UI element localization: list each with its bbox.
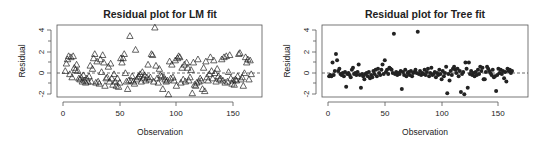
y-tick-label: 2 xyxy=(37,49,46,54)
data-point xyxy=(119,59,125,65)
data-point xyxy=(443,71,447,75)
data-point xyxy=(202,88,208,94)
y-tick-label: 4 xyxy=(37,27,46,32)
data-point xyxy=(351,66,355,70)
data-point xyxy=(225,69,231,75)
y-tick-label: 2 xyxy=(302,49,311,54)
tree-residual-plot-panel: Residual plot for Tree fit -2 0 2 4 Resi… xyxy=(272,0,544,145)
data-point xyxy=(98,69,104,75)
data-point xyxy=(483,77,487,81)
data-point xyxy=(504,79,508,83)
data-point xyxy=(121,51,127,57)
data-point xyxy=(429,66,433,70)
data-point xyxy=(463,60,467,64)
data-point xyxy=(357,63,361,67)
y-tick-label: -2 xyxy=(302,90,311,98)
data-point xyxy=(444,65,448,69)
x-tick-label: 100 xyxy=(169,109,183,118)
chart-title: Residual plot for Tree fit xyxy=(365,8,486,20)
data-point xyxy=(386,72,390,76)
chart-title: Residual plot for LM fit xyxy=(103,8,217,20)
data-point xyxy=(332,73,336,77)
data-point xyxy=(462,92,466,96)
data-point xyxy=(426,67,430,71)
data-point xyxy=(132,46,138,52)
x-tick-label: 150 xyxy=(491,109,505,118)
y-tick-label: 0 xyxy=(37,70,46,75)
data-points-triangles xyxy=(62,24,254,97)
y-axis-label: Residual xyxy=(282,44,292,77)
lm-residual-chart: Residual plot for LM fit -2 0 2 4 Residu… xyxy=(0,0,272,145)
data-point xyxy=(510,69,514,73)
data-point xyxy=(63,60,69,66)
data-point xyxy=(466,86,470,90)
data-point xyxy=(349,75,353,79)
data-point xyxy=(376,67,380,71)
data-point xyxy=(465,67,469,71)
data-point xyxy=(62,68,68,74)
x-axis: 0 50 100 150 Observation xyxy=(61,102,240,137)
tree-residual-chart: Residual plot for Tree fit -2 0 2 4 Resi… xyxy=(272,0,544,145)
y-axis-label: Residual xyxy=(17,44,27,77)
x-tick-label: 50 xyxy=(381,109,390,118)
data-point xyxy=(344,85,348,89)
data-point xyxy=(437,68,441,72)
data-point xyxy=(480,66,484,70)
data-point xyxy=(200,65,206,71)
data-point xyxy=(334,52,338,56)
data-point xyxy=(342,74,346,78)
data-point xyxy=(118,55,124,61)
x-tick-label: 0 xyxy=(326,109,331,118)
data-points-circles xyxy=(327,30,514,97)
data-point xyxy=(448,78,452,82)
y-axis: -2 0 2 4 Residual xyxy=(17,27,51,97)
data-point xyxy=(92,51,98,57)
data-point xyxy=(203,58,209,64)
data-point xyxy=(445,91,449,95)
data-point xyxy=(147,74,153,80)
data-point xyxy=(400,87,404,91)
data-point xyxy=(246,76,252,82)
y-tick-label: -2 xyxy=(37,90,46,98)
data-point xyxy=(333,69,337,73)
data-point xyxy=(457,74,461,78)
data-point xyxy=(189,90,195,96)
y-tick-label: 0 xyxy=(302,70,311,75)
data-point xyxy=(165,91,171,97)
lm-residual-plot-panel: Residual plot for LM fit -2 0 2 4 Residu… xyxy=(0,0,272,145)
data-point xyxy=(129,73,135,79)
x-tick-label: 0 xyxy=(61,109,66,118)
data-point xyxy=(416,30,420,34)
data-point xyxy=(494,89,498,93)
x-tick-label: 50 xyxy=(116,109,125,118)
data-point xyxy=(378,73,382,77)
data-point xyxy=(450,73,454,77)
data-point xyxy=(188,67,194,73)
data-point xyxy=(124,86,130,92)
x-tick-label: 150 xyxy=(226,109,240,118)
y-tick-label: 4 xyxy=(302,27,311,32)
data-point xyxy=(127,33,133,39)
data-point xyxy=(459,90,463,94)
x-tick-label: 100 xyxy=(435,109,449,118)
data-point xyxy=(491,68,495,72)
data-point xyxy=(102,83,108,89)
data-point xyxy=(392,32,396,36)
data-point xyxy=(335,58,339,62)
data-point xyxy=(362,77,366,81)
data-point xyxy=(381,63,385,67)
data-point xyxy=(337,67,341,71)
data-point xyxy=(145,61,151,67)
x-axis: 0 50 100 150 Observation xyxy=(326,102,505,137)
x-axis-label: Observation xyxy=(137,127,183,137)
data-point xyxy=(461,70,465,74)
data-point xyxy=(195,56,201,62)
y-axis: -2 0 2 4 Residual xyxy=(282,27,316,97)
data-point xyxy=(160,86,166,92)
data-point xyxy=(240,83,246,89)
data-point xyxy=(331,60,335,64)
x-axis-label: Observation xyxy=(402,127,448,137)
data-point xyxy=(467,60,471,64)
data-point xyxy=(359,86,363,90)
data-point xyxy=(120,55,126,61)
